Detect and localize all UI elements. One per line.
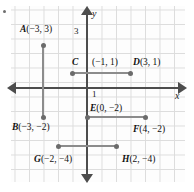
segment-c-d xyxy=(71,72,130,74)
y-axis-label: y xyxy=(92,8,96,19)
point-label-e: E(0, −2) xyxy=(90,103,122,113)
point-label-a-coords: (−3, 3) xyxy=(26,24,52,34)
point-label-g-name: G xyxy=(34,154,41,164)
scan-speck xyxy=(3,10,6,13)
y-axis-tick-label-3: 3 xyxy=(74,26,79,36)
coordinate-plane-figure: x y 1 3 A(−3, 3) B(−3, −2) C (−1, 1) D(3… xyxy=(0,0,194,192)
x-axis-tick-label-1: 1 xyxy=(92,89,97,99)
segment-g-h xyxy=(57,145,116,147)
point-d[interactable] xyxy=(128,71,133,76)
point-label-a: A(−3, 3) xyxy=(20,24,52,34)
segment-a-b xyxy=(42,44,44,117)
point-label-b: B(−3, −2) xyxy=(12,122,50,132)
point-label-d: D(3, 1) xyxy=(133,57,160,67)
point-c[interactable] xyxy=(70,71,75,76)
point-label-c-coords-text: (−1, 1) xyxy=(92,57,118,67)
point-label-h-coords: (2, −4) xyxy=(129,154,155,164)
point-label-d-name: D xyxy=(133,57,140,67)
x-axis-line xyxy=(13,87,181,89)
segment-e-f xyxy=(86,116,145,118)
point-a[interactable] xyxy=(41,43,46,48)
point-label-c: C xyxy=(72,57,78,67)
point-b[interactable] xyxy=(41,115,46,120)
point-label-d-coords: (3, 1) xyxy=(140,57,161,67)
point-e[interactable] xyxy=(85,115,90,120)
point-label-c-coords: (−1, 1) xyxy=(92,57,118,67)
point-label-c-name: C xyxy=(72,57,78,67)
point-label-e-coords: (0, −2) xyxy=(96,103,122,113)
y-axis-down-arrow-icon xyxy=(81,174,93,183)
point-label-g-coords: (−2, −4) xyxy=(41,154,72,164)
y-axis-line xyxy=(86,12,88,180)
point-f[interactable] xyxy=(143,115,148,120)
point-label-h: H(2, −4) xyxy=(122,154,155,164)
point-label-f-coords: (4, −2) xyxy=(139,124,165,134)
x-axis-label: x xyxy=(175,90,179,101)
point-label-f: F(4, −2) xyxy=(133,124,165,134)
point-label-g: G(−2, −4) xyxy=(34,154,72,164)
point-h[interactable] xyxy=(114,144,119,149)
point-label-b-coords: (−3, −2) xyxy=(18,122,49,132)
point-g[interactable] xyxy=(56,144,61,149)
x-axis-left-arrow-icon xyxy=(7,82,16,94)
